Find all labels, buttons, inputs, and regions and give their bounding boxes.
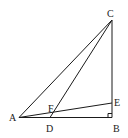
label-d: D: [46, 123, 53, 134]
right-angle-marker: [108, 114, 112, 118]
segment-cd: [50, 20, 112, 118]
segment-ae: [19, 103, 112, 118]
label-f: F: [48, 103, 54, 114]
geometry-diagram: A B C D E F: [0, 0, 128, 138]
label-e: E: [114, 97, 120, 108]
label-a: A: [9, 112, 17, 123]
label-b: B: [113, 123, 120, 134]
label-c: C: [107, 8, 114, 19]
segment-ca: [19, 20, 112, 118]
